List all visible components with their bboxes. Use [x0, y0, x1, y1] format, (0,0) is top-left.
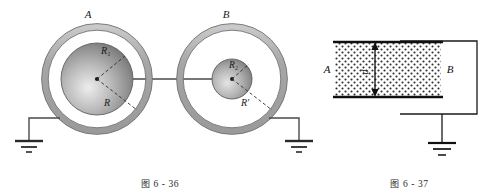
- sphere-b-title: B: [223, 8, 230, 20]
- plate-label-a: A: [323, 63, 331, 75]
- ground-capacitor: [428, 114, 456, 155]
- caption-6-37-cn: 图: [390, 179, 400, 189]
- ground-a: [15, 118, 60, 152]
- ground-b: [269, 118, 313, 152]
- ground-lead-a: [29, 118, 60, 141]
- figure-sheet: A R₁ R B R₂ R: [0, 0, 499, 194]
- caption-6-36-cn: 图: [141, 179, 151, 189]
- label-r1-a: R₁: [100, 45, 111, 56]
- figure-6-37-canvas: d A B: [320, 0, 499, 194]
- figure-6-37: d A B 图 6 - 37: [320, 0, 499, 194]
- plate-label-b: B: [447, 63, 454, 75]
- sphere-assembly-b: B R₂ R′: [177, 8, 288, 134]
- dielectric-slab: [335, 42, 441, 97]
- caption-figure-6-37: 图 6 - 37: [320, 177, 499, 190]
- figure-6-36-canvas: A R₁ R B R₂ R: [0, 0, 320, 194]
- caption-6-36-num: 6 - 36: [153, 179, 179, 189]
- ground-lead-b: [269, 118, 299, 141]
- label-rprime-b: R′: [240, 97, 250, 108]
- label-r2-b: R₂: [228, 60, 239, 70]
- figure-6-36: A R₁ R B R₂ R: [0, 0, 320, 194]
- sphere-a-title: A: [84, 8, 92, 20]
- caption-figure-6-36: 图 6 - 36: [0, 177, 320, 190]
- sphere-assembly-a: A R₁ R: [42, 8, 153, 134]
- label-r-a: R: [103, 97, 110, 108]
- caption-6-37-num: 6 - 37: [403, 179, 429, 189]
